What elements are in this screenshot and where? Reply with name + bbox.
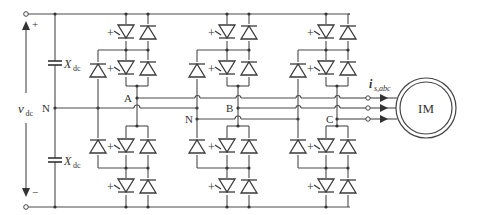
neutral-bus <box>55 105 300 121</box>
induction-motor: IM <box>396 78 456 138</box>
vdc-label: v <box>18 101 24 116</box>
upper-capacitor-subscript: dc <box>73 64 81 73</box>
dc-voltage-arrow: + − v dc <box>18 18 38 198</box>
gate-sign: + <box>107 140 114 154</box>
gate-sign: + <box>208 180 215 194</box>
gate-sign: + <box>307 140 314 154</box>
lower-capacitor-subscript: dc <box>73 161 81 170</box>
leg-c: C <box>290 12 358 208</box>
phase-b-label: B <box>226 102 233 114</box>
motor-label: IM <box>418 101 434 116</box>
gate-sign: + <box>107 180 114 194</box>
leg-b: B N <box>185 12 259 208</box>
gate-sign: + <box>208 62 215 76</box>
current-subscript: s,abc <box>374 84 391 93</box>
leg-b-neutral-label: N <box>185 113 193 125</box>
lower-capacitor-label: X <box>63 154 72 168</box>
phase-c-label: C <box>326 113 333 125</box>
gate-sign: + <box>307 26 314 40</box>
current-arrow-c-icon <box>380 115 388 123</box>
leg-a: A <box>90 12 158 208</box>
neutral-label: N <box>42 102 50 114</box>
gate-sign: + <box>208 140 215 154</box>
phase-a-label: A <box>124 92 132 104</box>
plus-sign: + <box>32 18 38 30</box>
dc-rails <box>24 12 350 210</box>
phase-output-lines: i s,abc <box>137 77 397 123</box>
current-label: i <box>369 77 373 91</box>
gate-sign: + <box>107 62 114 76</box>
gate-sign: + <box>307 62 314 76</box>
current-arrow-a-icon <box>380 94 388 102</box>
gate-sign: + <box>208 26 215 40</box>
vdc-subscript: dc <box>26 109 34 118</box>
gate-sign: + <box>307 180 314 194</box>
dc-link-capacitors: X dc X dc N <box>42 12 81 208</box>
gate-sign: + <box>107 26 114 40</box>
current-arrow-b-icon <box>380 104 388 112</box>
upper-capacitor-label: X <box>63 57 72 71</box>
npc-inverter-diagram: + − v dc X dc X dc N <box>0 0 478 215</box>
minus-sign: − <box>32 186 38 198</box>
